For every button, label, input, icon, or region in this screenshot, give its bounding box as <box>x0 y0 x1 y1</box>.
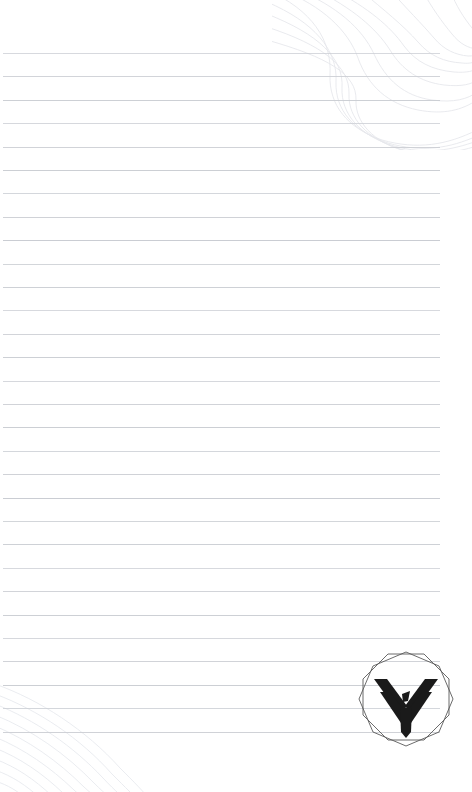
topographic-contours-top-right <box>272 0 472 150</box>
notepad-page <box>0 0 472 792</box>
ruled-line <box>3 147 440 148</box>
ruled-line <box>3 217 440 218</box>
ruled-line <box>3 544 440 545</box>
ruled-line <box>3 427 440 428</box>
ruled-line <box>3 53 440 54</box>
ruled-line <box>3 521 440 522</box>
ruled-line <box>3 591 440 592</box>
ruled-line <box>3 193 440 194</box>
page-content-text <box>0 0 1 1</box>
ruled-line <box>3 76 440 77</box>
ruled-line <box>3 451 440 452</box>
ruled-line <box>3 615 440 616</box>
ruled-line <box>3 123 440 124</box>
ruled-line <box>3 100 440 101</box>
ruled-line <box>3 498 440 499</box>
ruled-line <box>3 568 440 569</box>
ruled-line <box>3 310 440 311</box>
ruled-line <box>3 404 440 405</box>
ruled-line <box>3 287 440 288</box>
ruled-line <box>3 474 440 475</box>
ruled-line <box>3 170 440 171</box>
bird-glyph <box>374 679 438 738</box>
ruled-line <box>3 381 440 382</box>
ruled-line <box>3 264 440 265</box>
ruled-line <box>3 240 440 241</box>
chevron-bird-emblem <box>354 648 458 752</box>
ruled-line <box>3 638 440 639</box>
ruled-line <box>3 334 440 335</box>
topographic-contours-bottom-left <box>0 682 175 792</box>
ruled-line <box>3 357 440 358</box>
